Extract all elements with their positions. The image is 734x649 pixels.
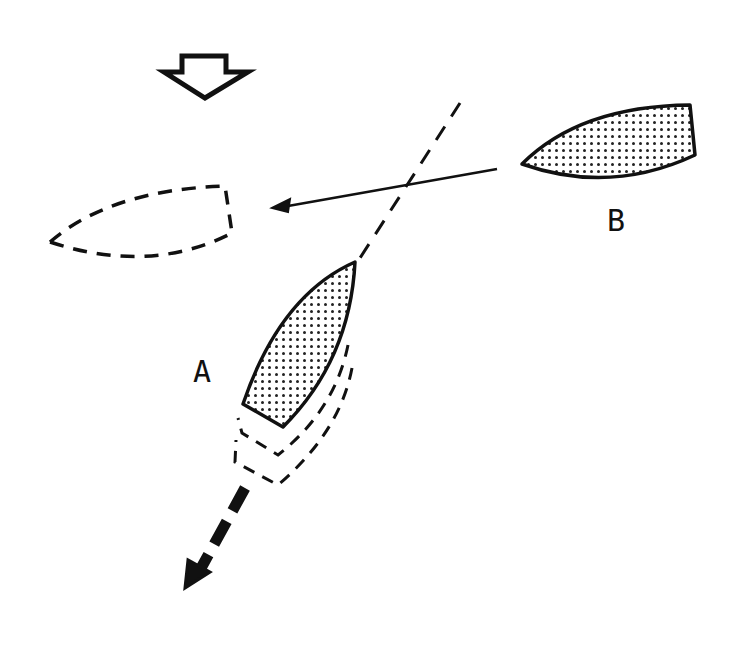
centerline-extension-a [360, 103, 460, 258]
boat-b-projected-outline [50, 186, 232, 257]
boat-b-hull [522, 105, 695, 178]
sternway-arrow-a [185, 488, 245, 588]
course-line-b [272, 169, 497, 212]
boat-a-hull [243, 262, 355, 427]
boat-b-label: B [607, 203, 625, 238]
sailing-diagram: B A [0, 0, 734, 649]
boat-a-label: A [193, 354, 211, 389]
wind-direction-arrow-icon [164, 56, 248, 98]
